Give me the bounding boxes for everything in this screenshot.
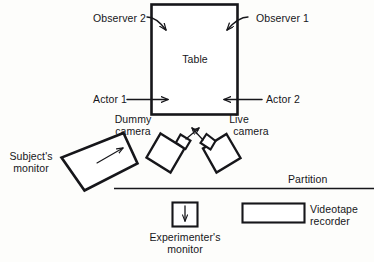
partition-label: Partition	[288, 173, 358, 185]
observer-1-label: Observer 1	[256, 12, 356, 24]
subjects-monitor-label-line1: Subject's	[2, 150, 60, 162]
experimental-layout-figure: Observer 2 Observer 1 Table Actor 1 Acto…	[0, 0, 374, 262]
actor-1-label: Actor 1	[62, 93, 127, 105]
live-camera-label-line2: camera	[222, 125, 280, 137]
experimenters-monitor-shape	[173, 203, 198, 227]
experimenters-monitor-label-line1: Experimenter's	[132, 231, 238, 243]
videotape-recorder-label-line2: recorder	[310, 215, 374, 227]
live-camera-label-line1: Live	[215, 113, 263, 125]
experimenters-monitor-label-line2: monitor	[132, 243, 238, 255]
actor-2-label: Actor 2	[266, 93, 336, 105]
dummy-camera-label-line2: camera	[102, 125, 164, 137]
videotape-recorder-shape	[243, 204, 305, 223]
videotape-recorder-label-line1: Videotape	[310, 203, 374, 215]
subjects-monitor-shape	[62, 133, 138, 191]
table-label: Table	[160, 53, 230, 65]
observer-2-label: Observer 2	[58, 12, 146, 24]
subjects-monitor-label-line2: monitor	[2, 162, 60, 174]
dummy-camera-label-line1: Dummy	[102, 113, 164, 125]
